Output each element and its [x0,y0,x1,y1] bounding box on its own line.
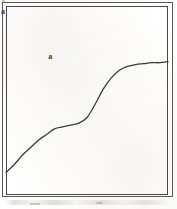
curve-label-lower-right: a [1,8,5,16]
figure-container: a ° a [0,0,177,209]
curve-label-upper-left: a [48,53,52,61]
scan-artifact-smudge [4,200,170,205]
plot-curve-layer [0,0,177,209]
scan-artifact-speck-left [30,203,40,205]
data-curve-path [6,62,168,173]
scan-artifact-speck-center [96,202,103,204]
degree-mark-icon: ° [2,0,5,7]
